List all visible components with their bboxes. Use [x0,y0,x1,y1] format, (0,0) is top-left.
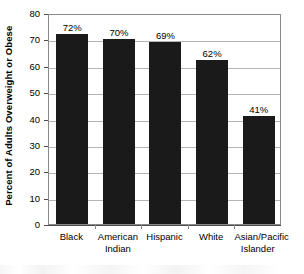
y-tick-label: 50 [29,88,40,98]
y-tick-label: 40 [29,115,40,125]
y-tick-label: 10 [29,194,40,204]
bar-value-label: 72% [63,23,82,33]
bar[interactable] [149,42,181,224]
bar[interactable] [56,34,88,224]
x-tick-label: AmericanIndian [95,231,142,255]
bar-group[interactable]: 41% [235,15,282,224]
x-tick-mark [141,225,142,229]
plot-area: 72%70%69%62%41% [48,14,281,225]
x-tick-label-line: Indian [95,243,142,255]
x-axis-tick-marks [48,225,281,229]
bar-value-label: 70% [109,28,128,38]
bar-group[interactable]: 70% [96,15,143,224]
bar[interactable] [103,39,135,224]
x-tick-label: White [188,231,235,243]
bar-value-label: 62% [203,49,222,59]
x-tick-mark [188,225,189,229]
bar-group[interactable]: 62% [189,15,236,224]
y-tick-label: 60 [29,62,40,72]
y-tick-label: 0 [35,220,40,230]
bar[interactable] [243,116,275,224]
y-tick-label: 20 [29,168,40,178]
x-tick-mark [234,225,235,229]
y-tick-label: 70 [29,36,40,46]
x-tick-mark [95,225,96,229]
x-tick-label-line: Asian/Pacific [234,231,281,243]
bar-value-label: 69% [156,31,175,41]
x-tick-label: Black [48,231,95,243]
x-tick-label-line: White [188,231,235,243]
x-axis-tick-labels: BlackAmericanIndianHispanicWhiteAsian/Pa… [48,231,281,265]
x-tick-label-line: Hispanic [141,231,188,243]
y-axis-title: Percent of Adults Overweight or Obese [0,0,18,232]
y-axis-tick-labels: 01020304050607080 [18,14,44,225]
bar-group[interactable]: 72% [49,15,96,224]
bar-value-label: 41% [249,105,268,115]
bar-chart-figure: Percent of Adults Overweight or Obese 01… [0,0,304,274]
bars-layer: 72%70%69%62%41% [49,15,280,224]
x-tick-label-line: Black [48,231,95,243]
x-tick-label: Hispanic [141,231,188,243]
bar[interactable] [196,60,228,224]
x-tick-label-line: American [95,231,142,243]
y-tick-label: 80 [29,9,40,19]
y-tick-label: 30 [29,141,40,151]
scan-artifact-band [0,265,304,274]
x-tick-label: Asian/PacificIslander [234,231,281,255]
x-tick-label-line: Islander [234,243,281,255]
bar-group[interactable]: 69% [142,15,189,224]
y-axis-title-text: Percent of Adults Overweight or Obese [4,26,14,206]
